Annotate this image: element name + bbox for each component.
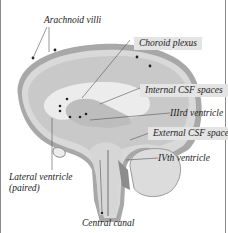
choroid-dot [69, 116, 72, 119]
label-fourth-ventricle: IVth ventricle [158, 153, 210, 164]
arachnoid-villus-dot [149, 65, 152, 68]
label-arachnoid-villi: Arachnoid villi [44, 15, 101, 26]
central-canal-arrow [101, 212, 103, 214]
label-lateral-ventricle: Lateral ventricle [9, 172, 73, 183]
arachnoid-villus-dot [136, 56, 139, 59]
label-third-ventricle: IIIrd ventricle [170, 108, 223, 119]
choroid-dot [59, 110, 62, 113]
label-external-csf-spaces: External CSF spaces [148, 127, 228, 140]
choroid-dot [66, 98, 69, 101]
arachnoid-villus-dot [54, 49, 57, 52]
label-central-canal: Central canal [82, 218, 135, 229]
pineal-fold [53, 148, 65, 158]
label-lateral-ventricle-note: (paired) [9, 183, 40, 194]
label-choroid-plexus: Choroid plexus [134, 37, 202, 50]
choroid-dot [79, 116, 82, 119]
label-internal-csf-spaces: Internal CSF spaces [140, 84, 228, 97]
leader-arachnoid-1 [33, 27, 47, 58]
choroid-dot [85, 113, 88, 116]
choroid-dot [59, 105, 62, 108]
